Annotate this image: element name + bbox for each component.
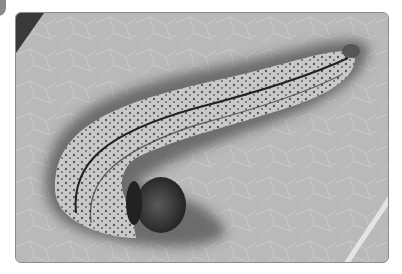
photo-illustration [16, 13, 389, 263]
corner-tab [0, 0, 6, 16]
caterpillar-photo [15, 12, 389, 263]
